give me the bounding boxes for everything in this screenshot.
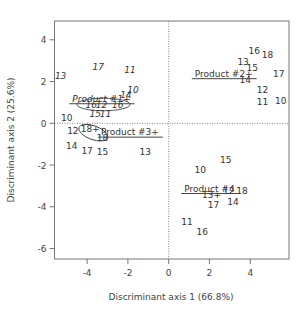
x-tick-label: 0 — [166, 268, 172, 278]
plot-frame — [55, 21, 290, 259]
centroid-label: Product #3+ — [101, 127, 159, 137]
data-point-label: 16 — [249, 46, 261, 56]
data-point-label: 15 — [220, 155, 231, 165]
data-point-label: 18 — [262, 50, 274, 60]
centroid-label: Product #2+ — [195, 69, 253, 79]
data-point-label: 17 — [273, 69, 284, 79]
data-point-label: 11 — [181, 217, 192, 227]
data-point-label: 17 — [81, 146, 92, 156]
x-tick-label: -2 — [123, 268, 132, 278]
y-tick-label: 0 — [41, 119, 47, 129]
data-point-label: 18 — [236, 186, 248, 196]
data-point-label: 10 — [195, 165, 207, 175]
data-point-label: 11 — [124, 65, 135, 75]
y-tick-label: -2 — [38, 161, 47, 171]
x-tick-label: -4 — [83, 268, 92, 278]
data-point-label: 13 — [140, 147, 151, 157]
x-tick-label: 2 — [207, 268, 213, 278]
data-point-label: 11 — [257, 97, 268, 107]
y-tick-label: 2 — [41, 77, 47, 87]
data-point-label: 15 — [97, 147, 108, 157]
data-point-label: 14 — [66, 141, 78, 151]
data-point-label: 13 — [55, 71, 67, 81]
data-point-label: 10 — [61, 113, 73, 123]
centroid-label: Product #4 — [184, 184, 235, 194]
data-point-label: 12 — [257, 85, 268, 95]
data-point-label: 11 — [100, 109, 111, 119]
data-point-label: 12 — [67, 126, 78, 136]
y-tick-label: 4 — [41, 35, 47, 45]
x-axis-title: Discriminant axis 1 (66.8%) — [109, 292, 234, 302]
data-point-label: 10 — [275, 96, 287, 106]
discriminant-scatter-plot: -4-2024420-2-4-6 13171114101612161511161… — [0, 0, 301, 312]
data-point-label: 17 — [208, 200, 219, 210]
centroid-label: Product #1+ — [72, 94, 130, 104]
data-point-label: 17 — [93, 62, 105, 72]
data-point-label: 14 — [227, 197, 239, 207]
data-point-label: 16 — [197, 227, 209, 237]
y-tick-label: -6 — [38, 244, 47, 254]
y-tick-label: -4 — [38, 202, 47, 212]
y-axis-title: Discriminant axis 2 (25.6%) — [6, 78, 16, 203]
x-tick-label: 4 — [247, 268, 253, 278]
